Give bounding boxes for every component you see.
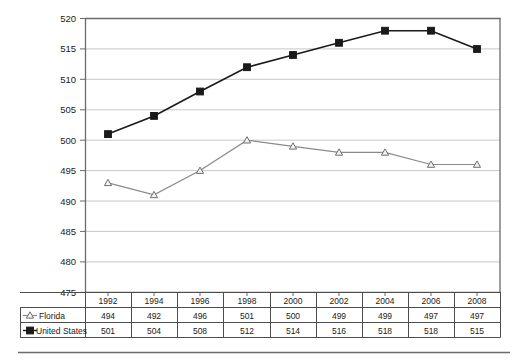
y-tick-label: 480 — [60, 256, 76, 267]
y-tick-label: 485 — [60, 226, 76, 237]
table-cell: 518 — [424, 326, 438, 336]
y-tick-label: 490 — [60, 196, 76, 207]
us-marker-1994 — [151, 113, 158, 120]
table-cell: 508 — [193, 326, 207, 336]
table-cell: 492 — [147, 311, 161, 321]
line-chart-svg: 520 515 510 505 500 495 490 485 480 475 — [0, 0, 528, 363]
us-marker-2004 — [382, 27, 389, 34]
table-header-cell: 1994 — [145, 296, 164, 306]
table-row-label: United States — [36, 326, 87, 336]
us-marker-1998 — [244, 64, 251, 71]
table-cell: 515 — [470, 326, 484, 336]
table-cell: 499 — [378, 311, 392, 321]
y-tick-label: 510 — [60, 74, 76, 85]
table-cell: 496 — [193, 311, 207, 321]
table-header-cell: 1992 — [99, 296, 118, 306]
table-cell: 500 — [286, 311, 300, 321]
us-marker-1996 — [197, 88, 204, 95]
y-tick-label: 500 — [60, 135, 76, 146]
table-header-cell: 2002 — [330, 296, 349, 306]
us-marker-1992 — [105, 131, 112, 138]
table-cell: 514 — [286, 326, 300, 336]
table-cell: 497 — [424, 311, 438, 321]
us-marker-2006 — [428, 27, 435, 34]
table-cell: 499 — [332, 311, 346, 321]
y-tick-label: 495 — [60, 165, 76, 176]
us-marker-2002 — [336, 39, 343, 46]
table-header-cell: 2006 — [422, 296, 441, 306]
table-header-cell: 2000 — [284, 296, 303, 306]
y-tick-label: 520 — [60, 13, 76, 24]
table-header-cell: 2004 — [376, 296, 395, 306]
table-header-cell: 1996 — [191, 296, 210, 306]
us-marker-2000 — [290, 52, 297, 59]
chart-figure: 520 515 510 505 500 495 490 485 480 475 — [0, 0, 528, 363]
table-cell: 501 — [101, 326, 115, 336]
y-tick-label: 505 — [60, 104, 76, 115]
table-header-cell: 2008 — [468, 296, 487, 306]
table-cell: 501 — [240, 311, 254, 321]
table-header-row: 1992 1994 1996 1998 2000 2002 2004 2006 … — [99, 296, 487, 306]
table-cell: 497 — [470, 311, 484, 321]
legend-united-states: United States — [23, 326, 87, 336]
table-cell: 518 — [378, 326, 392, 336]
filled-square-icon — [27, 327, 34, 334]
table-cell: 512 — [240, 326, 254, 336]
y-tick-label: 515 — [60, 43, 76, 54]
table-header-cell: 1998 — [238, 296, 257, 306]
us-marker-2008 — [474, 46, 481, 53]
figure-background — [0, 0, 528, 363]
table-row-label: Florida — [39, 311, 65, 321]
table-cell: 504 — [147, 326, 161, 336]
table-cell: 516 — [332, 326, 346, 336]
table-cell: 494 — [101, 311, 115, 321]
